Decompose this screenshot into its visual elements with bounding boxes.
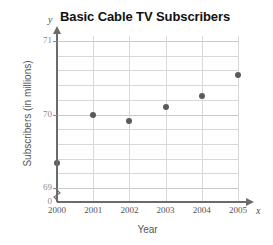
data-point xyxy=(90,112,96,118)
gridline-vertical xyxy=(238,36,239,202)
y-axis-arrow-icon xyxy=(53,26,61,34)
gridline-horizontal xyxy=(57,144,238,145)
data-point xyxy=(163,104,169,110)
data-point xyxy=(126,118,132,124)
x-axis-tick-label: 2005 xyxy=(218,205,258,215)
gridline-horizontal xyxy=(57,85,238,86)
gridline-vertical xyxy=(93,36,94,202)
x-axis-title: Year xyxy=(57,224,238,235)
x-axis-tick-label: 2003 xyxy=(146,205,186,215)
gridline-horizontal xyxy=(57,41,238,42)
y-axis-variable-label: y xyxy=(48,14,52,25)
x-axis-tick-label: 2004 xyxy=(182,205,222,215)
gridline-vertical xyxy=(202,36,203,202)
y-axis-line xyxy=(56,33,58,202)
gridline-horizontal xyxy=(57,188,238,189)
chart-container: Basic Cable TV Subscribers y x 7170690 2… xyxy=(0,0,273,245)
data-point xyxy=(235,72,241,78)
data-point xyxy=(199,93,205,99)
y-axis-tick-mark xyxy=(53,115,58,116)
gridline-horizontal xyxy=(57,129,238,130)
plot-area xyxy=(57,36,238,202)
y-axis-title: Subscribers (in millions) xyxy=(22,34,33,194)
gridline-horizontal xyxy=(57,115,238,116)
chart-title: Basic Cable TV Subscribers xyxy=(60,9,260,24)
x-axis-tick-label: 2002 xyxy=(109,205,149,215)
x-axis-line xyxy=(57,201,247,203)
gridline-vertical xyxy=(166,36,167,202)
axis-break-icon xyxy=(52,188,62,201)
y-axis-tick-mark xyxy=(53,188,58,189)
gridline-horizontal xyxy=(57,159,238,160)
gridline-horizontal xyxy=(57,100,238,101)
y-axis-tick-mark xyxy=(53,41,58,42)
gridline-horizontal xyxy=(57,56,238,57)
x-axis-tick-label: 2001 xyxy=(73,205,113,215)
x-axis-tick-label: 2000 xyxy=(37,205,77,215)
gridline-horizontal xyxy=(57,173,238,174)
gridline-horizontal xyxy=(57,70,238,71)
